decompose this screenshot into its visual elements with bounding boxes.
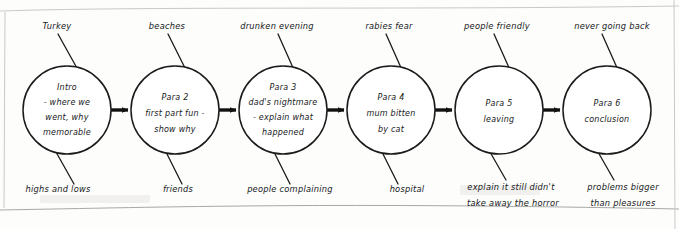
- node-circle-1[interactable]: [23, 66, 111, 154]
- paper-left-edge: [4, 12, 5, 208]
- top-label-2: beaches: [149, 20, 186, 31]
- top-label-6: never going back: [574, 20, 651, 31]
- top-annotations: Turkey beaches drunken evening rabies fe…: [42, 20, 650, 31]
- leader-bottom-6: [598, 152, 614, 180]
- bottom-label-5-line-1: explain it still didn't: [467, 181, 555, 192]
- leader-top-6: [602, 34, 618, 70]
- flow-diagram: Intro - where we went, why memorable Par…: [0, 0, 679, 229]
- node-6-line-2: conclusion: [585, 114, 630, 124]
- node-4-line-3: by cat: [378, 124, 405, 134]
- bottom-label-6-line-1: problems bigger: [586, 181, 659, 192]
- node-1-line-4: memorable: [43, 127, 91, 137]
- leader-bottom-5: [490, 152, 506, 180]
- bottom-annotations: highs and lows friends people complainin…: [25, 181, 659, 208]
- node-4-line-1: Para 4: [378, 92, 405, 102]
- leader-bottom-2: [166, 152, 182, 184]
- leader-top-1: [58, 34, 78, 70]
- node-5-line-1: Para 5: [486, 98, 513, 108]
- node-2-line-1: Para 2: [162, 92, 189, 102]
- leader-top-4: [386, 34, 402, 70]
- node-6-line-1: Para 6: [594, 98, 621, 108]
- top-label-1: Turkey: [42, 20, 71, 31]
- diagram-page: Intro - where we went, why memorable Par…: [0, 0, 679, 229]
- node-4-line-2: mum bitten: [366, 108, 415, 118]
- node-5-line-2: leaving: [484, 114, 515, 124]
- leader-bottom-1: [56, 152, 74, 184]
- node-3-line-3: - explain what: [253, 112, 314, 122]
- node-1-line-3: went, why: [45, 112, 88, 122]
- node-1-line-2: - where we: [44, 97, 91, 107]
- node-circle-6[interactable]: [563, 66, 651, 154]
- node-1-line-1: Intro: [57, 82, 77, 92]
- bottom-label-6-line-2: than pleasures: [591, 197, 656, 208]
- node-2-line-2: first part fun -: [145, 108, 204, 118]
- leader-bottom-4: [382, 152, 398, 184]
- node-3-line-4: happened: [262, 127, 305, 137]
- bottom-label-4: hospital: [390, 183, 425, 194]
- node-circle-5[interactable]: [455, 66, 543, 154]
- node-3-line-2: dad's nightmare: [248, 97, 317, 107]
- bottom-label-5-line-2: take away the horror: [467, 197, 559, 208]
- top-label-4: rabies fear: [365, 20, 413, 31]
- node-2-line-3: show why: [154, 124, 196, 134]
- top-label-3: drunken evening: [240, 20, 314, 31]
- leader-bottom-3: [274, 152, 290, 184]
- paper-bottom-edge: [0, 205, 679, 210]
- paper-top-edge: [0, 6, 679, 11]
- leader-top-3: [278, 34, 294, 70]
- bottom-label-2: friends: [163, 183, 194, 194]
- bottom-label-3: people complaining: [246, 183, 333, 194]
- node-3-line-1: Para 3: [270, 82, 297, 92]
- top-label-5: people friendly: [463, 20, 530, 31]
- node-circle-3[interactable]: [239, 66, 327, 154]
- paper-right-edge: [674, 0, 675, 229]
- bottom-label-1: highs and lows: [25, 183, 90, 194]
- leader-top-5: [494, 34, 510, 70]
- leader-top-2: [168, 34, 186, 70]
